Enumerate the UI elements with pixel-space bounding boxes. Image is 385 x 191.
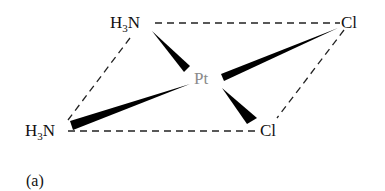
- wedge-bond-pt-nh3-top: [152, 31, 190, 72]
- atom-cl-bottom: Cl: [260, 122, 276, 139]
- atom-nh3-top: H3N: [110, 14, 140, 31]
- dashed-edge-right: [277, 30, 344, 118]
- structure-drawing: [0, 0, 385, 191]
- atom-cl-top: Cl: [341, 14, 357, 31]
- wedge-bond-pt-cl-top: [221, 28, 338, 81]
- atom-pt-center: Pt: [194, 70, 208, 87]
- wedge-bond-pt-nh3-bottom: [70, 84, 190, 130]
- figure-caption: (a): [26, 173, 44, 189]
- wedge-bond-pt-cl-bottom: [222, 88, 257, 124]
- atom-nh3-bottom: H3N: [25, 122, 55, 139]
